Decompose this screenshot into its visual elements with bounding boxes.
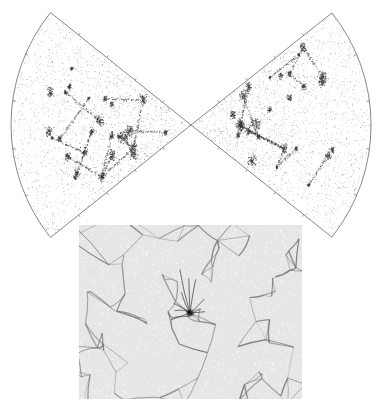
right-survey-wedge [191, 13, 371, 237]
left-survey-wedge [11, 13, 191, 238]
cosmic-web-simulation-map [70, 216, 310, 406]
left-wedge-ticks [13, 33, 165, 217]
right-wedge-galaxy-points [193, 14, 371, 235]
cosmic-web-figure [0, 0, 383, 406]
left-wedge-galaxy-points [13, 14, 190, 235]
